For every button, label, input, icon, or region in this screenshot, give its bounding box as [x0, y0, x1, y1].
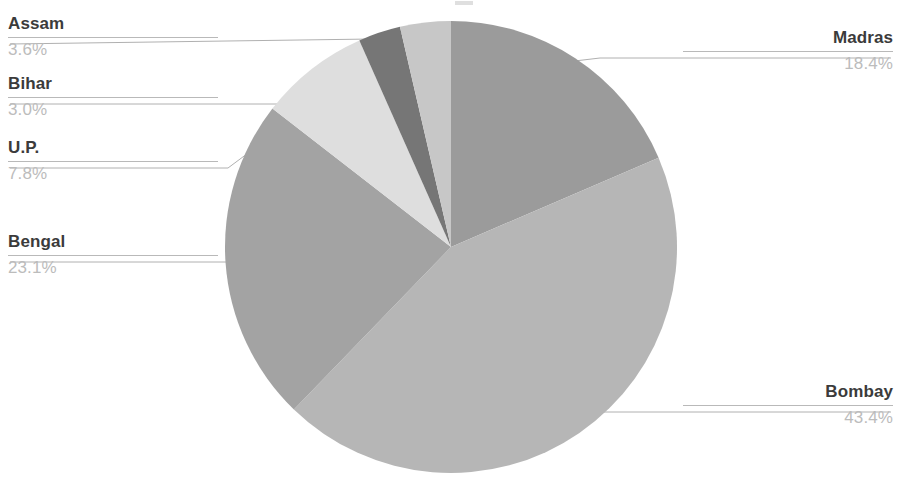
- callout-bihar-label: Bihar: [8, 74, 218, 94]
- callout-assam-value: 3.6%: [8, 40, 218, 60]
- callout-bihar: Bihar 3.0%: [8, 74, 218, 119]
- callout-madras-value: 18.4%: [683, 54, 893, 74]
- callout-bombay-label: Bombay: [683, 382, 893, 402]
- callout-bengal-rule: [8, 255, 218, 256]
- callout-madras: Madras 18.4%: [683, 28, 893, 73]
- callout-bengal: Bengal 23.1%: [8, 232, 218, 277]
- callout-bihar-rule: [8, 97, 218, 98]
- callout-bengal-value: 23.1%: [8, 258, 218, 278]
- callout-up-label: U.P.: [8, 138, 218, 158]
- callout-madras-rule: [683, 51, 893, 52]
- callout-madras-label: Madras: [683, 28, 893, 48]
- callout-bihar-value: 3.0%: [8, 100, 218, 120]
- callout-assam: Assam 3.6%: [8, 14, 218, 59]
- callout-up-value: 7.8%: [8, 164, 218, 184]
- callout-bombay-rule: [683, 405, 893, 406]
- callout-up-rule: [8, 161, 218, 162]
- callout-assam-label: Assam: [8, 14, 218, 34]
- callout-assam-rule: [8, 37, 218, 38]
- callout-bengal-label: Bengal: [8, 232, 218, 252]
- pie-slice-group: [225, 21, 677, 473]
- pie-chart-figure: Assam 3.6% Bihar 3.0% U.P. 7.8% Bengal 2…: [0, 0, 901, 484]
- callout-bombay-value: 43.4%: [683, 408, 893, 428]
- callout-bombay: Bombay 43.4%: [683, 382, 893, 427]
- callout-up: U.P. 7.8%: [8, 138, 218, 183]
